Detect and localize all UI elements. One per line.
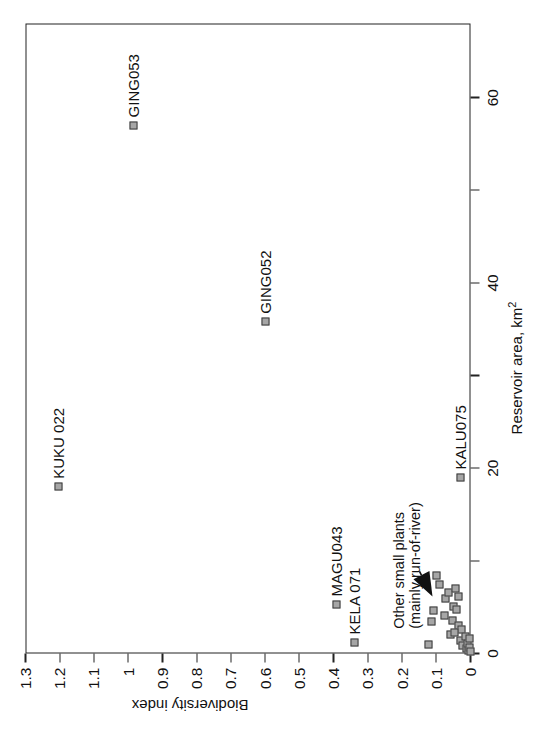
y-axis-tick-label: 0.3 [358, 667, 376, 705]
y-axis-tick-label: 0 [461, 667, 479, 705]
x-axis-tick-label: 40 [483, 274, 501, 291]
y-axis-tick [230, 653, 231, 662]
y-axis-tick [59, 653, 60, 662]
data-point-label: GING052 [256, 250, 273, 313]
annotation-line-1: Other small plants [390, 502, 406, 629]
x-axis-tick-label: 0 [483, 649, 501, 658]
data-point-marker [54, 482, 62, 490]
y-axis-tick [161, 653, 162, 662]
data-point-marker [432, 571, 440, 579]
y-axis-tick [401, 653, 402, 662]
x-axis-tick [470, 189, 479, 190]
y-axis-tick [332, 653, 333, 662]
y-axis-tick-label: 1.1 [84, 667, 102, 705]
y-axis-tick-label: 0.2 [393, 667, 411, 705]
y-axis-tick [196, 653, 197, 662]
y-axis-tick [93, 653, 94, 662]
scatter-chart-figure: 020406000.10.20.30.40.50.60.70.80.911.11… [0, 0, 537, 735]
y-axis-tick-label: 1.2 [50, 667, 68, 705]
y-axis-tick-label: 1.3 [16, 667, 34, 705]
data-point-label: KUKU 022 [49, 407, 66, 478]
data-point-marker [261, 317, 269, 325]
y-axis-tick [435, 653, 436, 662]
data-point-marker [435, 580, 443, 588]
data-point-label: GING053 [124, 54, 141, 117]
x-axis-tick [470, 96, 479, 97]
x-axis-tick [470, 467, 479, 468]
y-axis-tick [298, 653, 299, 662]
data-point-marker [129, 121, 137, 129]
annotation-line-2: (mainly run-of-river) [406, 502, 422, 629]
data-point-label: MAGU043 [327, 526, 344, 596]
y-axis-tick [127, 653, 128, 662]
data-point-marker [332, 600, 340, 608]
x-axis-title: Reservoir area, km2 [505, 0, 524, 735]
data-point-marker [429, 606, 437, 614]
y-axis-tick [24, 653, 25, 662]
annotation-other-small-plants: Other small plants(mainly run-of-river) [390, 502, 422, 629]
data-point-marker [440, 611, 448, 619]
data-point-marker [452, 605, 460, 613]
x-axis-tick [470, 560, 479, 561]
y-axis-tick-label: 0.4 [324, 667, 342, 705]
y-axis-tick-label: 0.6 [256, 667, 274, 705]
data-point-marker [451, 584, 459, 592]
data-point-marker [427, 618, 435, 626]
x-axis-tick-label: 60 [483, 89, 501, 106]
y-axis-tick [367, 653, 368, 662]
x-axis-title-superscript: 2 [505, 301, 517, 307]
x-axis-tick-label: 20 [483, 459, 501, 476]
y-axis-tick [264, 653, 265, 662]
x-axis-title-text: Reservoir area, km [507, 307, 524, 434]
data-point-label: KALU075 [452, 405, 469, 469]
data-point-marker [465, 634, 473, 642]
data-point-marker [350, 638, 358, 646]
x-axis-tick [470, 282, 479, 283]
data-point-marker [454, 593, 462, 601]
data-point-marker [450, 628, 458, 636]
data-point-marker [424, 640, 432, 648]
y-axis-title: Biodiversity index [131, 696, 248, 713]
rotated-chart-canvas: 020406000.10.20.30.40.50.60.70.80.911.11… [0, 0, 537, 735]
data-point-label: KELA 071 [346, 567, 363, 634]
data-point-marker [466, 647, 474, 655]
data-point-marker [456, 473, 464, 481]
y-axis-tick-label: 0.5 [290, 667, 308, 705]
x-axis-tick [470, 374, 479, 375]
y-axis-tick-label: 0.1 [427, 667, 445, 705]
